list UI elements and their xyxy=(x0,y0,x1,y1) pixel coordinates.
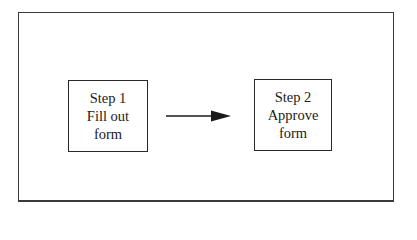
step-1-box: Step 1 Fill out form xyxy=(68,80,148,152)
step-1-desc-line2: form xyxy=(94,125,122,143)
step-1-title: Step 1 xyxy=(90,89,127,107)
step-2-box: Step 2 Approve form xyxy=(254,79,332,151)
step-1-desc-line1: Fill out xyxy=(87,107,129,125)
step-2-desc-line2: form xyxy=(279,124,307,142)
arrow-right-icon xyxy=(164,108,234,124)
step-2-desc-line1: Approve xyxy=(268,106,319,124)
step-2-title: Step 2 xyxy=(275,88,312,106)
